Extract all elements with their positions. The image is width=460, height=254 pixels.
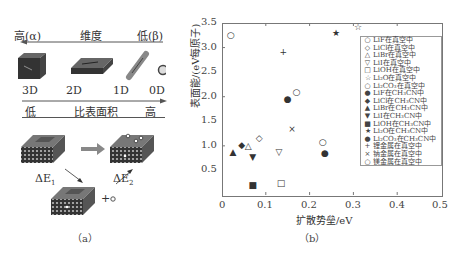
dimension-shapes [16,48,166,83]
slab-2d-icon [71,58,113,74]
data-point: + [280,47,288,57]
y-tick: 3.5 [201,16,217,27]
x-tick: 0.5 [432,199,448,210]
chart-legend: ○LiF在真空中◇LiCl在真空中△LiBr在真空中▽LiI在真空中□LiOH在… [360,36,442,166]
dot-0d-icon [159,66,167,75]
delta-e2-label: ΔE2 [113,172,133,187]
data-point: ★ [332,28,340,38]
legend-marker-icon: ○ [363,159,372,167]
divider [22,117,165,118]
data-point: ▽ [275,147,282,157]
data-point: ○ [227,30,235,40]
y-tick: 3.0 [201,41,217,52]
shape-label-2d: 2D [66,84,82,97]
x-tick: 0 [219,199,225,210]
caption-b: （b） [299,230,325,245]
data-point: ▲ [229,147,236,157]
y-tick: 1.5 [201,114,217,125]
data-point: △ [245,141,252,151]
data-point: ◆ [238,140,245,150]
lattice-block-final [110,134,154,163]
lattice-block-vacancy [51,187,95,215]
forward-arrow-icon [81,143,105,155]
plus-sign: + [101,192,110,205]
data-point: ○ [293,87,301,97]
lattice-block-initial [21,135,65,163]
data-point: ● [321,148,329,158]
data-point: ○ [319,137,327,147]
atom-icon [111,197,115,201]
shape-label-1d: 1D [113,84,129,97]
x-tick: 0.3 [345,199,361,210]
y-tick: 1.0 [201,139,217,150]
x-tick: 0.4 [389,199,405,210]
cube-3d-icon [18,53,46,79]
data-point: ■ [248,180,257,190]
data-point: ● [284,94,292,104]
y-tick: 2.0 [201,90,217,101]
data-point: ☆ [354,22,362,32]
caption-a: （a） [72,230,98,245]
shape-label-3d: 3D [22,84,38,97]
x-tick: 0.1 [257,199,273,210]
x-axis-label: 扩散势垒/eV [296,212,353,227]
data-point: × [288,124,296,134]
y-tick: 2.5 [201,65,217,76]
rod-1d-icon [129,54,146,77]
y-axis-label: 表面能/(eV每原子) [187,24,202,108]
x-tick: 0.2 [301,199,317,210]
shape-label-0d: 0D [149,84,165,97]
y-tick: 0.5 [201,163,217,174]
data-point: ◇ [256,133,263,143]
left-arrow-icon [20,38,165,46]
legend-item: ○镁金属在真空中 [361,159,441,167]
delta-e1-label: ΔE1 [35,172,55,187]
arrow-de1-icon [65,169,81,181]
data-point: □ [277,178,286,188]
legend-label: 镁金属在真空中 [373,159,422,167]
data-point: ▼ [249,152,256,162]
